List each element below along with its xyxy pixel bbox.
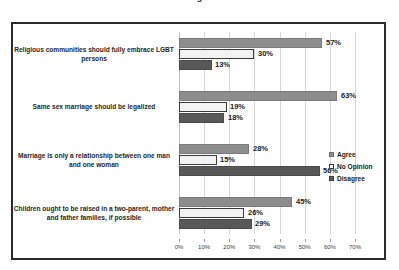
category-label: Marriage is only a relationship between … xyxy=(13,152,175,169)
title-text: g xyxy=(197,0,203,2)
bar-disagree[interactable] xyxy=(179,60,212,70)
x-tick-mark xyxy=(179,239,180,242)
x-tick-mark xyxy=(280,239,281,242)
table-row: 13% xyxy=(179,60,355,70)
bar-no-opinion[interactable] xyxy=(179,49,254,59)
x-tick-label: 30% xyxy=(248,244,260,250)
table-row: 26% xyxy=(179,208,355,218)
bar-agree[interactable] xyxy=(179,144,249,154)
bar-value-label: 26% xyxy=(248,207,263,218)
x-tick-mark xyxy=(254,239,255,242)
x-tick-mark xyxy=(305,239,306,242)
bar-value-label: 18% xyxy=(228,112,243,123)
legend-swatch-icon xyxy=(329,176,334,181)
bar-group: Same sex marriage should be legalized 63… xyxy=(179,91,355,124)
bar-value-label: 13% xyxy=(215,59,230,70)
table-row: 19% xyxy=(179,102,355,112)
x-tick-label: 0% xyxy=(175,244,184,250)
x-tick-label: 40% xyxy=(274,244,286,250)
x-tick-mark xyxy=(355,239,356,242)
legend-item-agree[interactable]: Agree xyxy=(329,148,389,160)
bar-agree[interactable] xyxy=(179,38,322,48)
bar-group: Religious communities should fully embra… xyxy=(179,38,355,71)
bar-value-label: 63% xyxy=(341,90,356,101)
legend-label: Agree xyxy=(337,151,356,158)
table-row: 63% xyxy=(179,91,355,101)
legend-item-disagree[interactable]: Disagree xyxy=(329,172,389,184)
bar-value-label: 15% xyxy=(220,154,235,165)
legend-swatch-icon xyxy=(329,164,334,169)
x-tick-label: 60% xyxy=(324,244,336,250)
cut-off-title: g xyxy=(0,0,399,12)
plot-area: Religious communities should fully embra… xyxy=(179,32,355,242)
x-axis: 0% 10% 20% 30% 40% 50% 60% 70% xyxy=(179,242,355,256)
bar-value-label: 19% xyxy=(230,101,245,112)
table-row: 30% xyxy=(179,49,355,59)
bar-value-label: 45% xyxy=(296,196,311,207)
bar-no-opinion[interactable] xyxy=(179,208,244,218)
chart-legend: Agree No Opinion Disagree xyxy=(329,148,389,184)
bar-disagree[interactable] xyxy=(179,166,320,176)
x-tick-mark xyxy=(229,239,230,242)
category-label: Children ought to be raised in a two-par… xyxy=(13,205,175,222)
table-row: 29% xyxy=(179,219,355,229)
legend-label: No Opinion xyxy=(337,163,373,170)
category-label: Religious communities should fully embra… xyxy=(13,46,175,63)
x-tick-label: 20% xyxy=(223,244,235,250)
bar-agree[interactable] xyxy=(179,197,292,207)
chart-plot-wrapper: Religious communities should fully embra… xyxy=(13,24,384,258)
bar-value-label: 30% xyxy=(258,48,273,59)
x-tick-mark xyxy=(330,239,331,242)
table-row: 45% xyxy=(179,197,355,207)
bar-agree[interactable] xyxy=(179,91,337,101)
legend-item-no-opinion[interactable]: No Opinion xyxy=(329,160,389,172)
x-tick-mark xyxy=(204,239,205,242)
chart-frame: Religious communities should fully embra… xyxy=(11,22,386,260)
bar-disagree[interactable] xyxy=(179,219,252,229)
bar-no-opinion[interactable] xyxy=(179,102,227,112)
bar-no-opinion[interactable] xyxy=(179,155,217,165)
bar-value-label: 28% xyxy=(253,143,268,154)
bar-group: Children ought to be raised in a two-par… xyxy=(179,197,355,230)
table-row: 18% xyxy=(179,113,355,123)
gridline-70 xyxy=(355,32,356,234)
bar-disagree[interactable] xyxy=(179,113,224,123)
legend-swatch-icon xyxy=(329,152,334,157)
bar-value-label: 57% xyxy=(326,37,341,48)
x-tick-label: 70% xyxy=(349,244,361,250)
category-label: Same sex marriage should be legalized xyxy=(13,103,175,112)
table-row: 57% xyxy=(179,38,355,48)
bar-value-label: 29% xyxy=(255,218,270,229)
x-tick-label: 10% xyxy=(198,244,210,250)
legend-label: Disagree xyxy=(337,175,365,182)
x-tick-label: 50% xyxy=(299,244,311,250)
